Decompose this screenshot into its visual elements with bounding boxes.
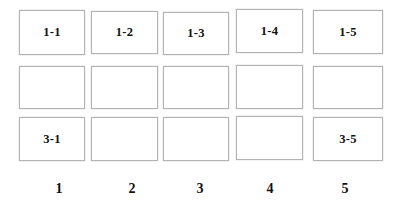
grid-cell[interactable]: 1-3 <box>163 12 229 55</box>
grid-cell[interactable] <box>91 117 158 161</box>
column-label-axis: 12345 <box>0 170 395 209</box>
column-label: 2 <box>112 182 152 196</box>
grid-cell-label: 1-2 <box>116 26 133 39</box>
grid-cell[interactable] <box>19 66 85 109</box>
grid-diagram-page: 1-11-21-31-41-53-13-5 12345 <box>0 0 395 209</box>
grid-cell[interactable] <box>163 117 229 161</box>
grid-cell-label: 3-1 <box>43 133 60 146</box>
column-label: 1 <box>39 182 79 196</box>
grid-cell-label: 1-5 <box>339 26 356 39</box>
grid-cell[interactable]: 1-4 <box>236 9 303 53</box>
grid-cell[interactable]: 1-5 <box>313 10 383 54</box>
grid-cell[interactable] <box>313 66 383 109</box>
grid-cell[interactable]: 1-1 <box>19 10 85 55</box>
grid-cell[interactable] <box>163 66 229 109</box>
column-label: 3 <box>180 182 220 196</box>
column-label: 5 <box>325 182 365 196</box>
grid-cell[interactable] <box>236 65 303 109</box>
grid-cell[interactable] <box>91 66 158 109</box>
grid-cell-label: 3-5 <box>339 133 356 146</box>
grid-cell[interactable]: 3-1 <box>19 117 85 161</box>
grid-cell[interactable]: 1-2 <box>91 11 158 54</box>
grid-cell-label: 1-3 <box>187 27 204 40</box>
grid-cell[interactable]: 3-5 <box>313 117 383 161</box>
grid-cell-label: 1-1 <box>43 26 60 39</box>
cell-grid: 1-11-21-31-41-53-13-5 <box>0 0 395 170</box>
grid-cell[interactable] <box>236 116 303 160</box>
grid-cell-label: 1-4 <box>261 25 278 38</box>
column-label: 4 <box>250 182 290 196</box>
